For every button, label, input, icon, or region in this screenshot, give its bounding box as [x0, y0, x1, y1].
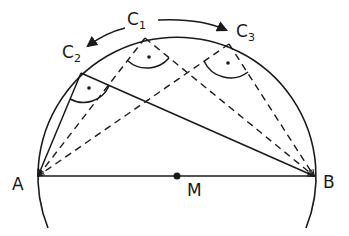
segment-c1-b — [145, 38, 314, 176]
segment-a-c1 — [38, 38, 145, 176]
label-c1: C1 — [127, 11, 146, 31]
arrow-toward-c3 — [158, 20, 226, 30]
right-angle-mark-c1 — [128, 55, 169, 68]
segment-c3-b — [229, 44, 314, 176]
thales-diagram — [0, 0, 349, 236]
label-c3: C3 — [236, 23, 255, 43]
circle-arc — [38, 37, 316, 228]
midpoint-m-dot — [174, 173, 181, 180]
arrow-toward-c2 — [88, 28, 125, 46]
right-angle-mark-c2 — [70, 86, 109, 102]
label-b: B — [323, 174, 335, 191]
label-m: M — [187, 182, 202, 199]
segment-c2-b — [81, 73, 314, 176]
label-a: A — [12, 176, 24, 193]
label-c2: C2 — [62, 44, 81, 64]
right-angle-mark-c3 — [204, 61, 248, 78]
